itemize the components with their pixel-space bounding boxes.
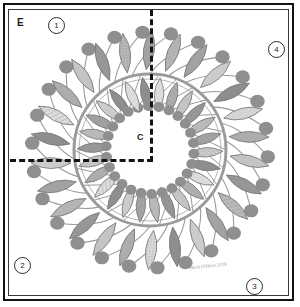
block-letter-label: E [17, 18, 24, 28]
corner-number-2: 2 [14, 257, 31, 274]
floral-wreath-illustration [9, 10, 289, 296]
corner-number-1: 1 [48, 17, 65, 34]
vertical-center-guide [150, 10, 153, 162]
center-point-label: C [137, 133, 144, 142]
horizontal-center-guide [10, 159, 153, 162]
corner-number-4: 4 [268, 41, 285, 58]
artwork-canvas [9, 10, 289, 296]
quilt-pattern-sheet: E C 1 4 2 3 Barb O'Hare 2016 [0, 0, 300, 307]
corner-number-3: 3 [246, 278, 263, 295]
